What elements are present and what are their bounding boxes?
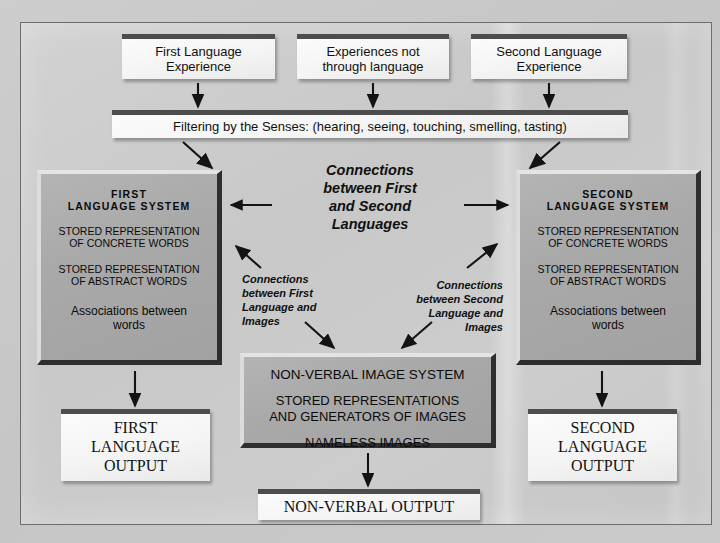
- box-first-language-output: FIRST LANGUAGE OUTPUT: [61, 409, 210, 481]
- first-output-line1: FIRST: [66, 419, 205, 438]
- conn-left-line3: Language and: [242, 300, 362, 314]
- box-non-verbal-image-system: NON-VERBAL IMAGE SYSTEM STORED REPRESENT…: [240, 353, 496, 448]
- box-first-language-experience: First Language Experience: [122, 34, 275, 79]
- label-connections-between-first-and-second-languages: Connections between First and Second Lan…: [277, 162, 463, 234]
- image-system-title: NON-VERBAL IMAGE SYSTEM: [249, 367, 486, 382]
- first-system-row2-line1: STORED REPRESENTATION: [47, 263, 211, 275]
- conn-right-line3: Language and: [378, 306, 503, 320]
- first-language-experience-line1: First Language: [127, 44, 270, 59]
- first-system-row3-line2: words: [47, 318, 211, 332]
- first-output-line2: LANGUAGE: [66, 438, 205, 457]
- second-system-title-line2: LANGUAGE SYSTEM: [526, 200, 690, 212]
- conn-right-line2: between Second: [378, 292, 503, 306]
- second-system-row2-line1: STORED REPRESENTATION: [526, 263, 690, 275]
- box-second-language-system: SECOND LANGUAGE SYSTEM STORED REPRESENTA…: [516, 170, 701, 365]
- first-system-row1-line1: STORED REPRESENTATION: [47, 225, 211, 237]
- first-output-line3: OUTPUT: [66, 457, 205, 476]
- first-language-experience-line2: Experience: [127, 59, 270, 74]
- second-system-title-line1: SECOND: [526, 188, 690, 200]
- conn-left-line2: between First: [242, 286, 362, 300]
- image-system-row1-line2: AND GENERATORS OF IMAGES: [249, 409, 486, 425]
- second-output-line1: SECOND: [533, 419, 672, 438]
- first-system-title-line1: FIRST: [47, 188, 211, 200]
- label-connections-between-second-language-and-images: Connections between Second Language and …: [378, 278, 503, 334]
- non-verbal-output-label: NON-VERBAL OUTPUT: [263, 498, 475, 517]
- box-experiences-not-through-language: Experiences not through language: [297, 34, 449, 79]
- conn-left-line4: Images: [242, 314, 362, 328]
- second-system-row1-line1: STORED REPRESENTATION: [526, 225, 690, 237]
- second-system-row1-line2: OF CONCRETE WORDS: [526, 237, 690, 249]
- box-second-language-experience: Second Language Experience: [471, 34, 627, 79]
- second-language-experience-line1: Second Language: [476, 44, 622, 59]
- second-system-row3-line1: Associations between: [526, 304, 690, 318]
- first-system-title-line2: LANGUAGE SYSTEM: [47, 200, 211, 212]
- conn-center-line3: and Second: [277, 198, 463, 216]
- second-system-row2-line2: OF ABSTRACT WORDS: [526, 275, 690, 287]
- second-language-experience-line2: Experience: [476, 59, 622, 74]
- first-system-row2-line2: OF ABSTRACT WORDS: [47, 275, 211, 287]
- conn-left-line1: Connections: [242, 272, 362, 286]
- box-first-language-system: FIRST LANGUAGE SYSTEM STORED REPRESENTAT…: [37, 170, 222, 365]
- second-output-line3: OUTPUT: [533, 457, 672, 476]
- conn-center-line1: Connections: [277, 162, 463, 180]
- conn-right-line4: Images: [378, 320, 503, 334]
- first-system-row1-line2: OF CONCRETE WORDS: [47, 237, 211, 249]
- experiences-line2: through language: [302, 59, 444, 74]
- conn-center-line2: between First: [277, 180, 463, 198]
- box-second-language-output: SECOND LANGUAGE OUTPUT: [528, 409, 677, 481]
- filter-bar-label: Filtering by the Senses: (hearing, seein…: [117, 119, 623, 134]
- box-non-verbal-output: NON-VERBAL OUTPUT: [258, 489, 480, 520]
- conn-right-line1: Connections: [378, 278, 503, 292]
- experiences-line1: Experiences not: [302, 44, 444, 59]
- image-system-row1-line1: STORED REPRESENTATIONS: [249, 393, 486, 409]
- image-system-row2: NAMELESS IMAGES: [249, 435, 486, 450]
- conn-center-line4: Languages: [277, 216, 463, 234]
- second-output-line2: LANGUAGE: [533, 438, 672, 457]
- first-system-row3-line1: Associations between: [47, 304, 211, 318]
- box-filtering-by-the-senses: Filtering by the Senses: (hearing, seein…: [112, 110, 628, 138]
- second-system-row3-line2: words: [526, 318, 690, 332]
- label-connections-between-first-language-and-images: Connections between First Language and I…: [242, 272, 362, 328]
- diagram-canvas: First Language Experience Experiences no…: [0, 0, 720, 543]
